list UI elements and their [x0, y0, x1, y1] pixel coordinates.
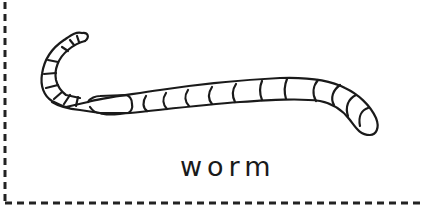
- vocabulary-card: worm: [0, 0, 423, 208]
- word-label: worm: [180, 153, 276, 180]
